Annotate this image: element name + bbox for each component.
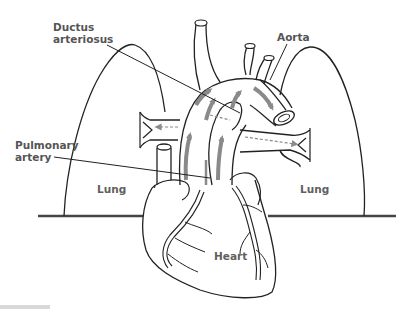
label-aorta: Aorta (277, 31, 310, 43)
leader-ductus (107, 45, 240, 113)
heart (143, 173, 276, 298)
arrow-aortic-arch (254, 88, 272, 108)
label-pulmonary-artery: Pulmonary artery (15, 139, 79, 163)
label-pulmonary-line1: Pulmonary (15, 139, 79, 151)
arrow-ascending (218, 138, 222, 180)
left-pulmonary-branch (140, 112, 180, 148)
vena-cava (157, 144, 171, 185)
arrow-to-right-lung (245, 137, 295, 144)
arrow-ascending-upper (232, 92, 240, 108)
right-pulmonary-branch (240, 128, 310, 162)
label-heart: Heart (214, 250, 247, 262)
label-pulmonary-line2: artery (15, 151, 79, 163)
label-lung-right: Lung (300, 183, 329, 195)
label-ductus-arteriosus: Ductus arteriosus (53, 21, 113, 45)
label-ductus-line1: Ductus (53, 21, 113, 33)
arrow-pulmonary-left (186, 135, 190, 180)
label-ductus-line2: arteriosus (53, 33, 113, 45)
label-lung-left: Lung (97, 183, 126, 195)
leader-aorta (270, 44, 287, 80)
arrow-ductus (206, 100, 214, 120)
caption-bar (0, 305, 50, 309)
